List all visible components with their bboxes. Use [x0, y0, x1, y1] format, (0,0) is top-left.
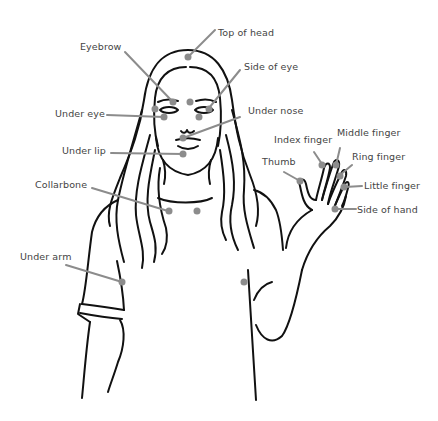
- right-armpit: [254, 282, 272, 300]
- label-under-nose: Under nose: [248, 106, 303, 116]
- label-side-of-eye: Side of eye: [244, 62, 298, 72]
- label-collarbone: Collarbone: [35, 180, 87, 190]
- left-eye: [160, 107, 178, 113]
- dot-under-arm-right: [241, 279, 248, 286]
- right-forearm-inner: [286, 210, 312, 248]
- pointer-under-nose: [183, 117, 240, 138]
- pointer-under-lip: [111, 153, 183, 154]
- dot-thumb: [297, 178, 304, 185]
- dot-ring-finger: [337, 173, 344, 180]
- dot-little-finger: [341, 184, 348, 191]
- pointer-little-finger: [345, 186, 362, 187]
- right-torso: [248, 270, 256, 400]
- tapping-points-diagram: Top of head Eyebrow Side of eye Under ey…: [0, 0, 438, 421]
- shirt-neckline: [158, 198, 212, 203]
- dot-collarbone-left: [166, 208, 173, 215]
- dot-side-of-eye-left: [152, 106, 159, 113]
- label-index-finger: Index finger: [274, 135, 332, 145]
- dot-under-eye-left: [161, 114, 168, 121]
- hair-strand-7: [220, 150, 226, 240]
- shirt-right-shoulder: [254, 190, 283, 250]
- dot-top-of-head: [185, 54, 192, 61]
- dot-side-of-hand: [332, 206, 339, 213]
- pointer-eyebrow: [125, 52, 172, 101]
- label-side-of-hand: Side of hand: [357, 205, 418, 215]
- label-thumb: Thumb: [262, 157, 296, 167]
- label-under-arm: Under arm: [20, 252, 72, 262]
- label-ring-finger: Ring finger: [352, 152, 405, 162]
- pointer-collarbone: [92, 188, 168, 211]
- left-sleeve-hem-bottom: [80, 313, 122, 319]
- label-eyebrow: Eyebrow: [80, 42, 121, 52]
- dot-under-lip: [180, 151, 187, 158]
- dot-index-finger: [319, 162, 326, 169]
- label-under-lip: Under lip: [62, 146, 106, 156]
- thumb: [300, 180, 316, 210]
- dot-under-arm-left: [119, 279, 126, 286]
- hair-strand-6: [226, 135, 238, 250]
- dot-middle-finger: [333, 162, 340, 169]
- pointer-under-arm: [66, 265, 122, 282]
- dot-under-eye-right: [196, 114, 203, 121]
- dot-eyebrow-left: [170, 99, 177, 106]
- left-sleeve-hem-top: [82, 304, 124, 310]
- nose: [181, 130, 194, 133]
- label-under-eye: Under eye: [55, 109, 105, 119]
- dot-collarbone-right: [194, 208, 201, 215]
- dot-under-nose: [180, 135, 187, 142]
- left-underarm-line: [117, 261, 124, 310]
- label-middle-finger: Middle finger: [337, 128, 401, 138]
- pointer-under-eye: [107, 115, 164, 117]
- label-little-finger: Little finger: [364, 181, 420, 191]
- dot-eyebrow-right: [187, 99, 194, 106]
- dot-side-of-eye-right: [206, 106, 213, 113]
- label-top-of-head: Top of head: [218, 28, 274, 38]
- left-arm-outer: [82, 322, 90, 398]
- left-arm-inner: [108, 320, 124, 392]
- shirt-left-shoulder: [82, 200, 118, 304]
- lower-lip: [178, 146, 198, 149]
- right-forearm-outer: [256, 270, 302, 340]
